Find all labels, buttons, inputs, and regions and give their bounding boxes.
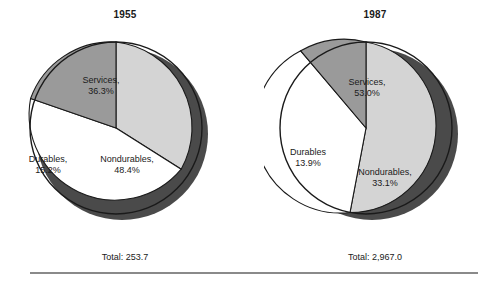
pie-label-nondurables-1955: Nondurables, 48.4% bbox=[72, 154, 182, 176]
two-pie-chart-figure: 1955 Services, 36.3% bbox=[0, 0, 500, 282]
pie-label-durables-1987-value: 13.9% bbox=[268, 158, 348, 169]
pie-label-nondurables-1987-value: 33.1% bbox=[330, 178, 440, 189]
pie-label-durables-1955: Durables, 15.2% bbox=[8, 154, 88, 176]
pie-label-services-1955-name: Services, bbox=[46, 75, 156, 86]
panel-title-1955: 1955 bbox=[0, 9, 250, 20]
pie-label-nondurables-1955-name: Nondurables, bbox=[72, 154, 182, 165]
pie-chart-1955: Services, 36.3% Nondurables, 48.4% Durab… bbox=[14, 37, 234, 237]
pie-label-durables-1955-value: 15.2% bbox=[8, 165, 88, 176]
pie-total-1955: Total: 253.7 bbox=[0, 252, 250, 262]
pie-panel-1955: 1955 Services, 36.3% bbox=[0, 0, 250, 282]
pie-chart-1987: Services, 53.0% Nondurables, 33.1% Durab… bbox=[264, 37, 484, 237]
pie-label-services-1955: Services, 36.3% bbox=[46, 75, 156, 97]
pie-label-services-1955-value: 36.3% bbox=[46, 86, 156, 97]
pie-svg-1955 bbox=[14, 37, 234, 237]
pie-label-durables-1987-name: Durables bbox=[268, 147, 348, 158]
pie-label-services-1987-name: Services, bbox=[312, 77, 422, 88]
pie-label-durables-1955-name: Durables, bbox=[8, 154, 88, 165]
pie-label-nondurables-1987: Nondurables, 33.1% bbox=[330, 167, 440, 189]
pie-panel-1987: 1987 Services, 53.0% Nondurables, bbox=[250, 0, 500, 282]
pie-label-services-1987: Services, 53.0% bbox=[312, 77, 422, 99]
pie-label-services-1987-value: 53.0% bbox=[312, 88, 422, 99]
panel-title-1987: 1987 bbox=[250, 9, 500, 20]
bottom-rule bbox=[30, 272, 478, 274]
pie-svg-1987 bbox=[264, 37, 484, 237]
pie-label-durables-1987: Durables 13.9% bbox=[268, 147, 348, 169]
pie-total-1987: Total: 2,967.0 bbox=[250, 252, 500, 262]
pie-label-nondurables-1955-value: 48.4% bbox=[72, 165, 182, 176]
